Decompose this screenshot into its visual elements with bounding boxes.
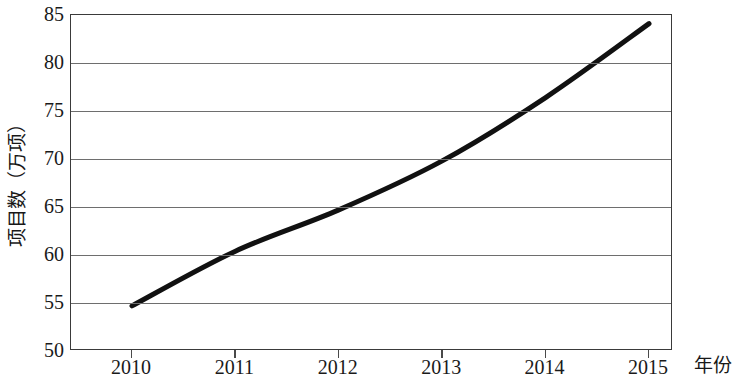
y-tick-label: 80 (24, 52, 64, 72)
y-tick-label: 85 (24, 4, 64, 24)
gridline (71, 111, 671, 112)
line-chart: 项目数（万项） 5055606570758085 201020112012201… (0, 0, 743, 378)
y-axis-tick-labels: 5055606570758085 (22, 0, 64, 378)
x-tick-label: 2014 (505, 356, 585, 378)
x-tick-label: 2015 (608, 356, 688, 378)
x-tick-label: 2011 (194, 356, 274, 378)
y-tick-label: 50 (24, 340, 64, 360)
gridline (71, 255, 671, 256)
y-tick-label: 65 (24, 196, 64, 216)
plot-area (70, 14, 672, 350)
data-series-line (132, 24, 649, 306)
y-tick-label: 70 (24, 148, 64, 168)
x-tick-label: 2013 (401, 356, 481, 378)
data-line-svg (71, 15, 673, 351)
x-tick-label: 2010 (91, 356, 171, 378)
gridline (71, 303, 671, 304)
y-tick-label: 75 (24, 100, 64, 120)
y-tick-label: 55 (24, 292, 64, 312)
y-tick-label: 60 (24, 244, 64, 264)
gridline (71, 159, 671, 160)
gridline (71, 207, 671, 208)
gridline (71, 63, 671, 64)
x-axis-title: 年份 (694, 354, 732, 376)
x-tick-label: 2012 (298, 356, 378, 378)
